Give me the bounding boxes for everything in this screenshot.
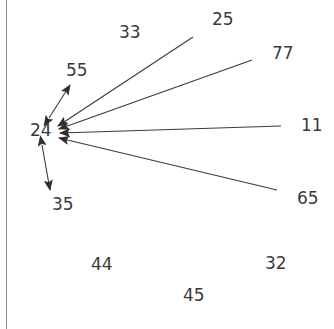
node-label-77: 77 bbox=[272, 45, 294, 62]
node-label-25: 25 bbox=[212, 11, 234, 28]
node-label-32: 32 bbox=[265, 255, 287, 272]
node-label-45: 45 bbox=[183, 287, 205, 304]
node-label-55: 55 bbox=[66, 62, 88, 79]
node-label-24: 24 bbox=[30, 122, 52, 139]
graph-edge bbox=[42, 145, 50, 190]
node-label-33: 33 bbox=[119, 24, 141, 41]
graph-edge bbox=[60, 126, 281, 133]
graph-edge bbox=[59, 138, 277, 190]
graph-edge bbox=[58, 37, 193, 126]
graph-edge bbox=[49, 85, 70, 118]
node-label-44: 44 bbox=[91, 256, 113, 273]
graph-figure: 2455352577116533444532 bbox=[0, 0, 334, 329]
node-label-11: 11 bbox=[301, 117, 323, 134]
node-label-65: 65 bbox=[297, 190, 319, 207]
node-label-35: 35 bbox=[52, 196, 74, 213]
graph-edge bbox=[59, 60, 252, 129]
